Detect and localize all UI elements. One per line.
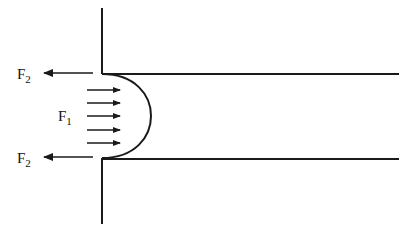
label-f1: F1 [58, 108, 72, 127]
f1-arrows [87, 90, 120, 143]
diagram-canvas: F2 F1 F2 [0, 0, 415, 242]
tube [102, 74, 399, 159]
label-f2-top: F2 [17, 66, 31, 85]
label-f2-bottom: F2 [17, 150, 31, 169]
